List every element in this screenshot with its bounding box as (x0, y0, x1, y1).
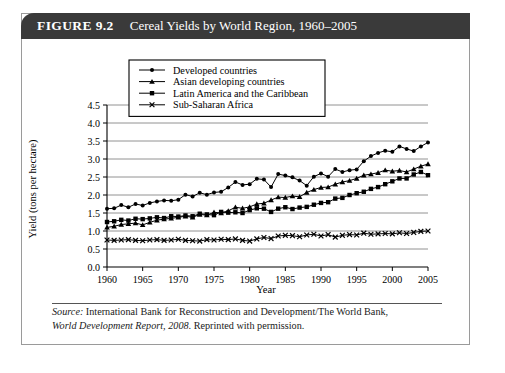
x-tick-label: 1985 (275, 274, 295, 285)
x-tick-label: 1960 (97, 274, 117, 285)
y-tick-label: 0.5 (88, 244, 101, 255)
y-tick-label: 0.0 (88, 262, 101, 273)
y-tick-labels: 0.00.51.01.52.02.53.03.54.04.5 (88, 100, 101, 273)
source-note: Source: International Bank for Reconstru… (52, 305, 442, 333)
figure-number: FIGURE 9.2 (37, 18, 114, 34)
y-tick-label: 2.0 (88, 190, 101, 201)
y-axis-label: Yield (tons per hectare) (27, 139, 39, 238)
source-line1: International Bank for Reconstruction an… (83, 306, 388, 317)
legend-label: Developed countries (173, 65, 257, 76)
x-tick-label: 2000 (382, 274, 402, 285)
y-tick-label: 4.5 (88, 100, 101, 111)
source-publication: World Development Report, 2008 (52, 320, 189, 331)
y-tick-label: 3.5 (88, 136, 101, 147)
legend-label: Sub-Saharan Africa (173, 99, 254, 110)
cereal-yields-line-chart: 0.00.51.01.52.02.53.03.54.04.5 196019651… (21, 39, 470, 301)
x-tick-label: 1990 (311, 274, 331, 285)
figure-title: Cereal Yields by World Region, 1960–2005 (130, 18, 357, 34)
x-tick-label: 1975 (204, 274, 224, 285)
x-tick-label: 1965 (133, 274, 153, 285)
series-asian-developing-countries (104, 161, 431, 229)
figure-header-bar: FIGURE 9.2 Cereal Yields by World Region… (21, 13, 470, 39)
series-developed-countries (105, 140, 430, 210)
legend-label: Latin America and the Caribbean (173, 88, 308, 99)
y-tick-label: 2.5 (88, 172, 101, 183)
y-tick-label: 4.0 (88, 118, 101, 129)
x-axis-label: Year (256, 284, 276, 295)
source-label: Source: (52, 306, 83, 317)
x-tick-label: 2005 (418, 274, 438, 285)
data-series-layer (104, 140, 431, 243)
chart-area: 0.00.51.01.52.02.53.03.54.04.5 196019651… (21, 39, 470, 301)
source-line2: . Reprinted with permission. (189, 320, 305, 331)
x-tick-label: 1995 (347, 274, 367, 285)
y-tick-label: 1.0 (88, 226, 101, 237)
source-divider (52, 303, 442, 304)
series-latin-america-and-the-caribbean (105, 170, 430, 224)
legend-label: Asian developing countries (173, 76, 285, 87)
x-tick-label: 1970 (168, 274, 188, 285)
y-tick-label: 1.5 (88, 208, 101, 219)
y-tick-label: 3.0 (88, 154, 101, 165)
gridlines (107, 105, 428, 249)
chart-legend: Developed countriesAsian developing coun… (129, 60, 325, 116)
